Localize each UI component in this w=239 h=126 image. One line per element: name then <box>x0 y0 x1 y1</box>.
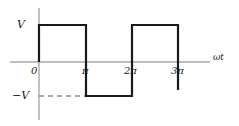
x-tick-label-pi: π <box>82 66 89 76</box>
waveform-figure: V −V 0 π 2π 3π ωt <box>0 0 239 126</box>
x-tick-label-3pi: 3π <box>171 66 184 76</box>
square-wave-trace <box>39 25 178 96</box>
x-tick-label-0: 0 <box>31 66 37 76</box>
y-axis-label-negative-v: −V <box>12 90 29 101</box>
x-axis-label-omega-t: ωt <box>213 53 224 62</box>
x-tick-label-2pi: 2π <box>124 66 137 76</box>
waveform-plot-svg <box>0 0 239 126</box>
y-axis-label-positive-v: V <box>17 19 25 30</box>
